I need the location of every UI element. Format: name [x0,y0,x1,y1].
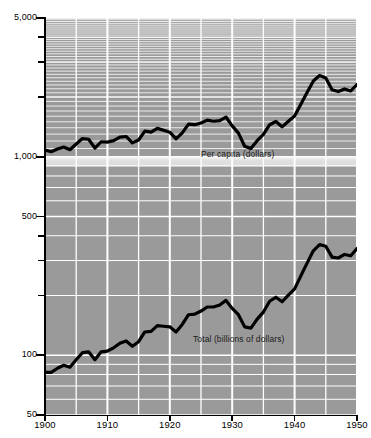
y-tick-label: 50 [1,409,37,419]
x-tick-label: 1920 [147,419,193,430]
y-tick-label: 5,000 [1,12,37,22]
x-tick-label: 1910 [84,419,130,430]
x-axis-line [44,415,358,417]
y-minor-tick [38,36,45,38]
plot-svg [45,18,357,415]
y-minor-tick [38,235,45,237]
y-tick-label: 500 [1,211,37,221]
series-label-per-capita: Per capita (dollars) [201,149,274,159]
plot-area: Per capita (dollars) Total (billions of … [45,18,357,415]
y-tick-100 [36,354,45,356]
y-minor-tick [38,260,45,262]
x-tick-label: 1940 [272,419,318,430]
y-tick-1000 [36,156,45,158]
y-tick-label: 100 [1,349,37,359]
y-tick-label: 1,000 [1,151,37,161]
y-tick-500 [36,216,45,218]
x-tick-label: 1930 [209,419,255,430]
x-tick-label: 1950 [334,419,371,430]
series-label-total: Total (billions of dollars) [193,334,285,344]
y-tick-5000 [36,17,45,19]
y-minor-tick [38,96,45,98]
x-tick-label: 1900 [22,419,68,430]
y-minor-tick [38,61,45,63]
y-minor-tick [38,295,45,297]
chart-container: Per capita (dollars) Total (billions of … [0,0,371,438]
